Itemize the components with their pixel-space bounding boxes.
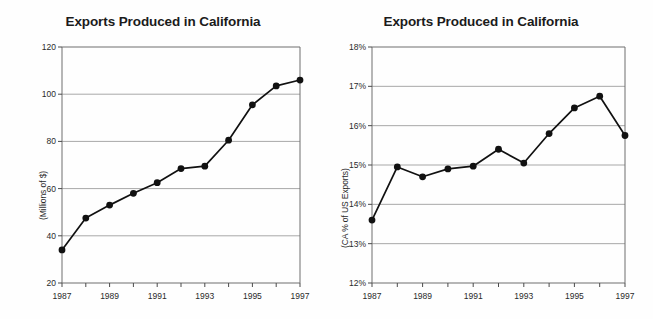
data-line-right xyxy=(372,96,625,220)
ytick-label-right-4: 16% xyxy=(349,121,366,131)
ytick-label-right-1: 13% xyxy=(349,239,366,249)
data-point-left-1994 xyxy=(225,137,232,144)
ytick-label-left-0: 20 xyxy=(47,278,56,288)
data-point-left-1990 xyxy=(130,190,137,197)
data-point-right-1992 xyxy=(495,146,502,153)
xtick-label-right-10: 1997 xyxy=(616,291,635,301)
ytick-label-right-0: 12% xyxy=(349,278,366,288)
plot-area-left: 20406080100120198719891991199319951997(M… xyxy=(0,0,326,319)
xtick-label-left-8: 1995 xyxy=(243,291,262,301)
data-point-left-1995 xyxy=(249,101,256,108)
data-point-left-1989 xyxy=(106,202,113,209)
chart-panel-exports-millions: Exports Produced in California 204060801… xyxy=(0,0,326,319)
data-point-right-1991 xyxy=(470,163,477,170)
data-point-right-1997 xyxy=(622,132,629,139)
xtick-label-right-8: 1995 xyxy=(565,291,584,301)
data-point-left-1996 xyxy=(273,83,280,90)
data-line-left xyxy=(62,80,300,250)
chart-svg-right xyxy=(326,0,652,319)
data-point-left-1997 xyxy=(297,77,304,84)
data-point-right-1987 xyxy=(369,217,376,224)
ytick-label-right-2: 14% xyxy=(349,199,366,209)
xtick-label-left-4: 1991 xyxy=(148,291,167,301)
data-point-right-1994 xyxy=(546,130,553,137)
xtick-label-left-6: 1993 xyxy=(195,291,214,301)
xtick-label-left-0: 1987 xyxy=(53,291,72,301)
data-point-left-1988 xyxy=(82,215,89,222)
ytick-label-right-6: 18% xyxy=(349,42,366,52)
data-point-right-1988 xyxy=(394,164,401,171)
data-point-left-1987 xyxy=(59,247,66,254)
ytick-label-right-5: 17% xyxy=(349,81,366,91)
data-point-right-1990 xyxy=(445,166,452,173)
y-axis-label-left: (Millions of $) xyxy=(38,171,48,220)
data-point-left-1991 xyxy=(154,179,161,186)
ytick-label-right-3: 15% xyxy=(349,160,366,170)
xtick-label-left-10: 1997 xyxy=(291,291,310,301)
xtick-label-right-6: 1993 xyxy=(514,291,533,301)
chart-panel-exports-percent: Exports Produced in California 12%13%14%… xyxy=(326,0,652,319)
ytick-label-left-1: 40 xyxy=(47,231,56,241)
plot-area-right: 12%13%14%15%16%17%18%1987198919911993199… xyxy=(326,0,652,319)
data-point-right-1993 xyxy=(520,160,527,167)
figure-page: Exports Produced in California 204060801… xyxy=(0,0,653,319)
ytick-label-left-4: 100 xyxy=(42,89,56,99)
y-axis-label-right: (CA % of US Exports) xyxy=(340,168,350,248)
ytick-label-left-3: 80 xyxy=(47,136,56,146)
xtick-label-right-2: 1989 xyxy=(413,291,432,301)
ytick-label-left-5: 120 xyxy=(42,42,56,52)
xtick-label-left-2: 1989 xyxy=(100,291,119,301)
data-point-left-1992 xyxy=(178,165,185,172)
data-point-right-1995 xyxy=(571,105,578,112)
data-point-right-1989 xyxy=(419,173,426,180)
data-point-left-1993 xyxy=(201,163,208,170)
xtick-label-right-0: 1987 xyxy=(363,291,382,301)
data-point-right-1996 xyxy=(596,93,603,100)
xtick-label-right-4: 1991 xyxy=(464,291,483,301)
